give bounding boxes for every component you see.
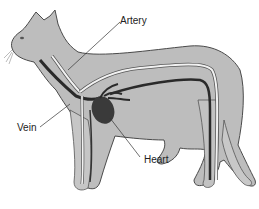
cat-whiskers (4, 50, 13, 64)
vein-leader-line (40, 104, 70, 127)
artery-label: Artery (120, 16, 147, 26)
heart-label: Heart (144, 155, 168, 165)
vein-label: Vein (17, 123, 36, 133)
cat-front-leg (70, 110, 91, 190)
cat-diagram (0, 0, 259, 209)
cat-eye (20, 37, 24, 39)
artery-front-leg-fill (82, 96, 83, 184)
cat-body (11, 10, 255, 189)
